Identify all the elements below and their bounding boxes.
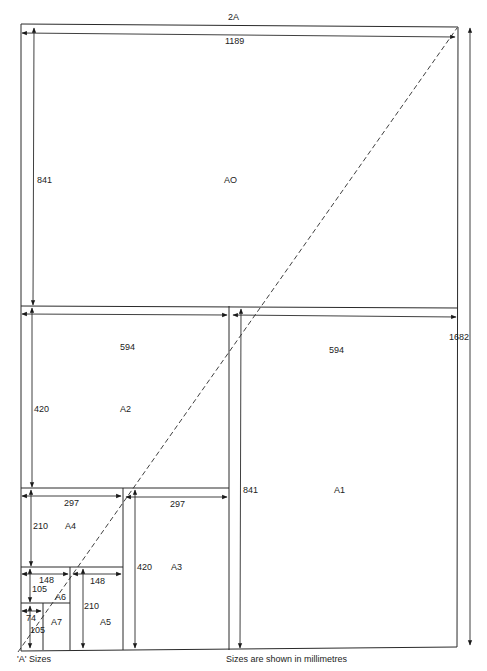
label-total-height: 1682 [449, 333, 469, 342]
units-note: Sizes are shown in millimetres [226, 655, 347, 664]
label-a3: A3 [171, 563, 182, 572]
label-a4-height: 210 [33, 522, 48, 531]
diagonal-dashed-line [18, 28, 457, 652]
label-a1: A1 [334, 486, 345, 495]
label-a4-width: 297 [64, 499, 79, 508]
label-a7-width: 74 [26, 614, 36, 623]
dim-a1-width [233, 315, 456, 317]
label-a2-width: 594 [120, 343, 135, 352]
label-a7-height: 105 [30, 626, 45, 635]
label-a1-height: 841 [243, 486, 258, 495]
label-a5-width: 148 [90, 577, 105, 586]
dim-a0-height [33, 28, 34, 305]
diagram-title: 'A' Sizes [17, 655, 51, 664]
dim-a2-width [22, 314, 227, 315]
label-a0-width: 1189 [225, 37, 244, 46]
label-a6: A6 [55, 593, 66, 602]
label-a0: AO [224, 176, 237, 185]
label-a3-height: 420 [137, 563, 152, 572]
label-a7: A7 [51, 618, 62, 627]
label-a5: A5 [100, 618, 111, 627]
dim-a1-height [240, 309, 241, 648]
label-a0-height: 841 [37, 176, 52, 185]
label-a2: A2 [120, 405, 131, 414]
a0-bottom-edge [21, 306, 458, 308]
a-sizes-diagram [0, 0, 487, 671]
label-2a: 2A [228, 13, 239, 22]
label-a4: A4 [65, 522, 76, 531]
label-a2-height: 420 [34, 405, 49, 414]
label-a5-height: 210 [84, 602, 99, 611]
label-a3-width: 297 [170, 500, 185, 509]
label-a6-height: 105 [32, 585, 47, 594]
label-a1-width: 594 [329, 346, 344, 355]
